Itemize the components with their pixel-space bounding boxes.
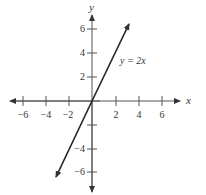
line-label: y = 2x: [119, 55, 146, 66]
x-axis-label: x: [185, 94, 191, 106]
x-tick-label: −4: [41, 109, 52, 120]
x-tick-label: 4: [137, 109, 142, 120]
coordinate-plane: −6 −4 −2 2 4 6 6 4 2 −4 −6 x y y = 2x: [0, 0, 206, 195]
y-tick-label: −4: [74, 143, 85, 154]
y-tick-label: 6: [80, 23, 85, 34]
x-tick-label: −6: [18, 109, 29, 120]
y-tick-label: 2: [80, 71, 85, 82]
x-tick-label: 6: [160, 109, 165, 120]
y-axis-label: y: [88, 1, 94, 13]
y-tick-label: −6: [74, 166, 85, 177]
x-tick-label: −2: [63, 109, 74, 120]
y-tick-label: 4: [80, 47, 85, 58]
x-tick-label: 2: [114, 109, 119, 120]
